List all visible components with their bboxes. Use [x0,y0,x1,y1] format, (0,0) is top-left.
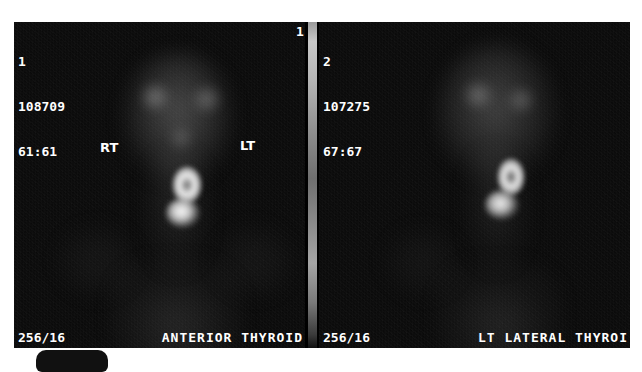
salivary-uptake-parotid [461,80,495,110]
grayscale-colorbar[interactable] [308,22,317,348]
salivary-uptake-sublingual [166,126,196,150]
salivary-uptake-submandibular [505,86,537,114]
panel-window: 67:67 [323,144,386,159]
soft-tissue-head [122,52,234,184]
panel-index: 1 [18,54,81,69]
panel-view-label-lt-lateral: LT LATERAL THYROI [478,330,628,345]
salivary-uptake-right [138,82,172,112]
panel-counts: 108709 [18,99,81,114]
thyroid-focus-lower [166,198,200,228]
colorbar-region[interactable]: 1 [305,22,319,348]
bottom-tab-handle[interactable] [36,350,108,372]
scan-image-frame: 1 108709 61:61 RT LT 256/16 ANTERIOR THY… [14,22,630,348]
image-panel-anterior[interactable]: 1 108709 61:61 RT LT 256/16 ANTERIOR THY… [14,22,305,348]
colorbar-index-label: 1 [296,24,304,39]
image-panel-lt-lateral[interactable]: 2 107275 67:67 256/16 LT LATERAL THYROI [319,22,630,348]
panel-index: 2 [323,54,386,69]
orientation-marker-rt: RT [100,140,118,155]
panel-window: 61:61 [18,144,81,159]
soft-tissue-head [437,44,557,184]
panel-matrix-lt-lateral: 256/16 [323,330,370,345]
salivary-uptake-left [190,84,224,114]
panel-header-lt-lateral: 2 107275 67:67 [323,24,386,189]
panel-header-anterior: 1 108709 61:61 [18,24,81,189]
panel-counts: 107275 [323,99,386,114]
panel-view-label-anterior: ANTERIOR THYROID [162,330,303,345]
thyroid-focus-lower [485,190,519,220]
panel-matrix-anterior: 256/16 [18,330,65,345]
orientation-marker-lt: LT [240,138,255,153]
